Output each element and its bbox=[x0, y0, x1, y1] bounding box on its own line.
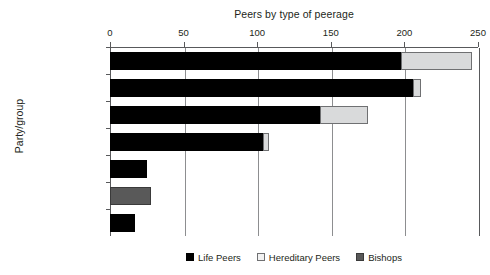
legend-swatch-icon bbox=[356, 253, 364, 261]
bar-group bbox=[110, 79, 478, 97]
legend-label: Hereditary Peers bbox=[269, 252, 340, 263]
bar-segment bbox=[110, 52, 401, 70]
x-axis-tick-label: 50 bbox=[178, 27, 189, 38]
legend-item: Bishops bbox=[356, 252, 402, 263]
legend-swatch-icon bbox=[257, 253, 265, 261]
bar-group bbox=[110, 160, 478, 178]
bar-group bbox=[110, 52, 478, 70]
x-axis-tick bbox=[184, 42, 185, 47]
bar-segment bbox=[110, 187, 151, 205]
x-axis-tick-label: 250 bbox=[470, 27, 486, 38]
chart-title: Peers by type of peerage bbox=[110, 8, 478, 20]
y-axis-tick bbox=[106, 47, 110, 48]
x-axis-tick bbox=[404, 42, 405, 47]
bar-segment bbox=[110, 160, 147, 178]
bar-group bbox=[110, 133, 478, 151]
legend-item: Life Peers bbox=[186, 252, 241, 263]
y-axis-tick bbox=[106, 155, 110, 156]
chart-legend: Life PeersHereditary PeersBishops bbox=[110, 248, 478, 266]
bar-segment bbox=[110, 79, 413, 97]
y-axis-tick bbox=[106, 128, 110, 129]
legend-label: Life Peers bbox=[198, 252, 241, 263]
bar-segment bbox=[110, 133, 263, 151]
bar-group bbox=[110, 214, 478, 232]
bar-group bbox=[110, 187, 478, 205]
bar-segment bbox=[110, 106, 320, 124]
bar-segment bbox=[263, 133, 269, 151]
bar-chart: Peers by type of peerage Party/group 050… bbox=[0, 0, 490, 275]
x-axis-tick-label: 0 bbox=[107, 27, 112, 38]
x-axis-tick bbox=[478, 42, 479, 47]
legend-label: Bishops bbox=[368, 252, 402, 263]
legend-item: Hereditary Peers bbox=[257, 252, 340, 263]
x-axis-tick bbox=[257, 42, 258, 47]
bar-segment bbox=[320, 106, 367, 124]
x-axis-tick-label: 150 bbox=[323, 27, 339, 38]
bar-segment bbox=[413, 79, 420, 97]
y-axis-tick bbox=[106, 182, 110, 183]
x-axis-tick bbox=[331, 42, 332, 47]
legend-swatch-icon bbox=[186, 253, 194, 261]
y-axis-tick bbox=[106, 101, 110, 102]
y-axis-tick bbox=[106, 209, 110, 210]
x-axis-tick bbox=[110, 42, 111, 47]
gridline bbox=[479, 48, 480, 236]
x-axis-tick-label: 100 bbox=[249, 27, 265, 38]
bar-segment bbox=[401, 52, 472, 70]
x-axis-tick-label: 200 bbox=[396, 27, 412, 38]
bar-segment bbox=[110, 214, 135, 232]
y-axis-title: Party/group bbox=[13, 76, 25, 176]
bar-group bbox=[110, 106, 478, 124]
y-axis-tick bbox=[106, 74, 110, 75]
